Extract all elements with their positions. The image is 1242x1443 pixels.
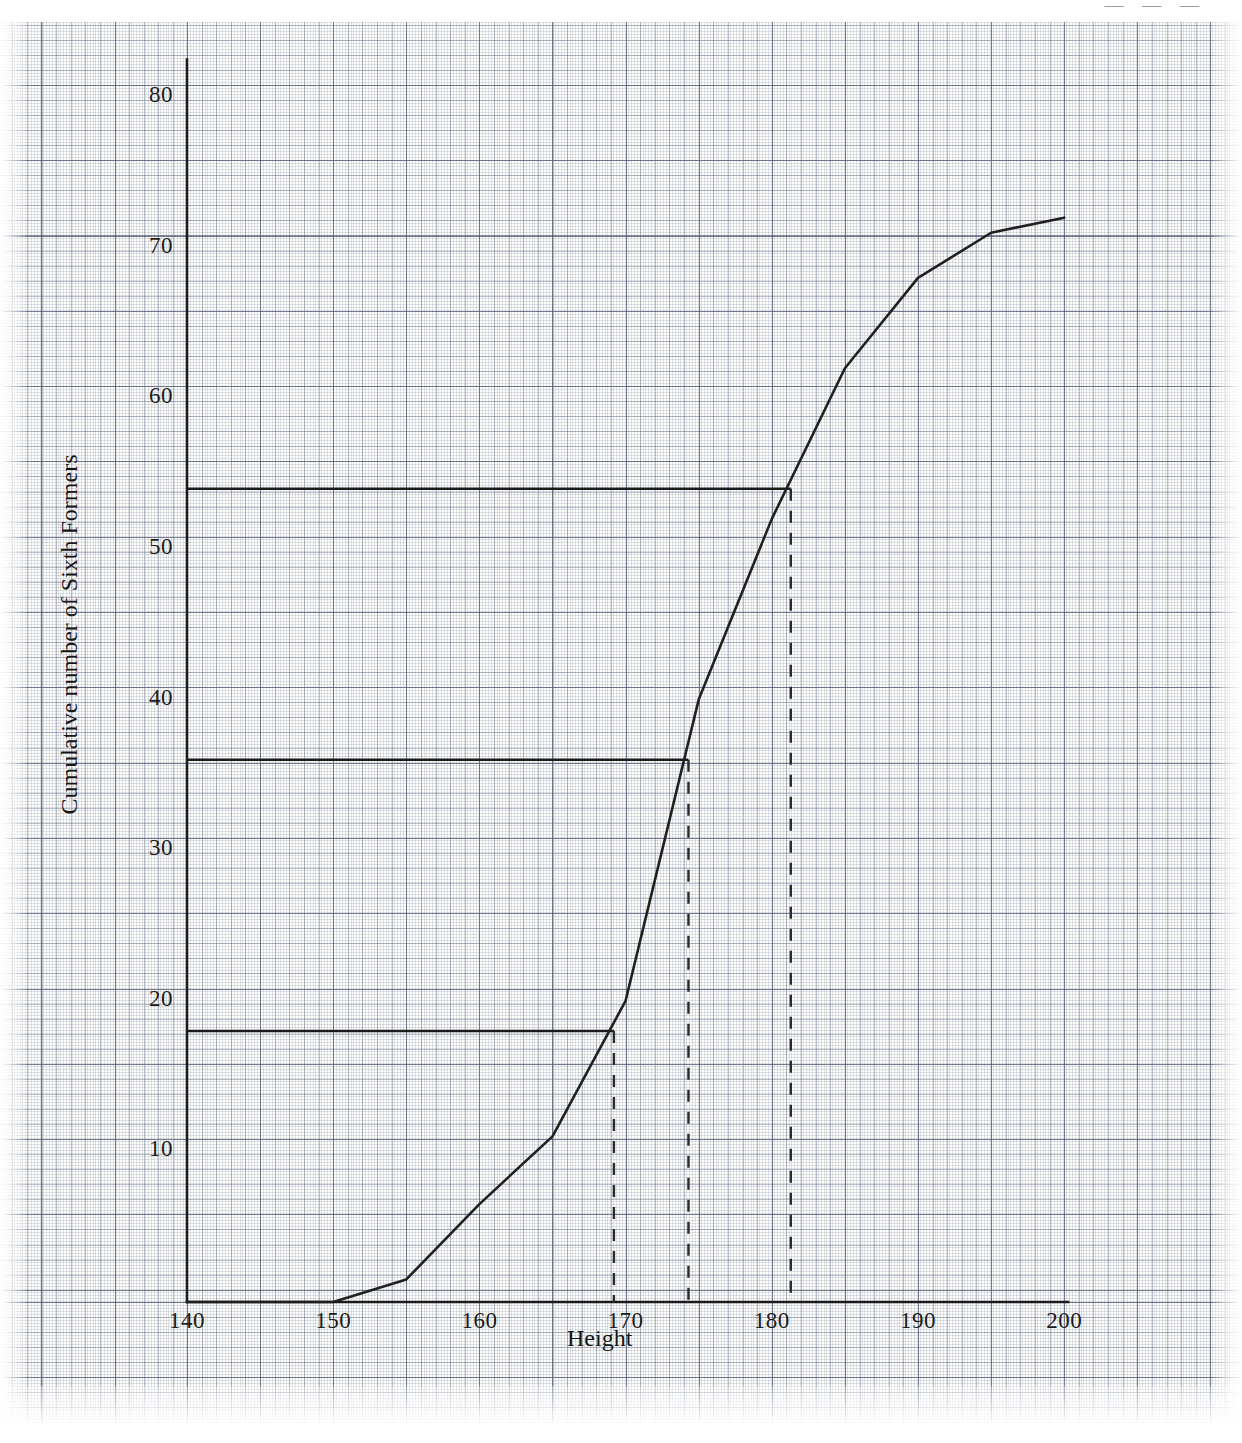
x-tick-label-200: 200 bbox=[1024, 1308, 1104, 1334]
y-tick-label-50: 50 bbox=[113, 534, 173, 560]
quartile-markers-layer bbox=[187, 489, 791, 1302]
y-tick-label-20: 20 bbox=[113, 986, 173, 1012]
x-tick-label-150: 150 bbox=[293, 1308, 373, 1334]
y-tick-label-10: 10 bbox=[113, 1136, 173, 1162]
y-tick-label-80: 80 bbox=[113, 82, 173, 108]
y-tick-label-30: 30 bbox=[113, 835, 173, 861]
x-tick-label-140: 140 bbox=[147, 1308, 227, 1334]
x-axis-label: Height bbox=[567, 1325, 632, 1352]
x-tick-label-160: 160 bbox=[439, 1308, 519, 1334]
y-axis-label: Cumulative number of Sixth Formers bbox=[56, 435, 83, 835]
y-tick-label-40: 40 bbox=[113, 685, 173, 711]
x-tick-label-180: 180 bbox=[732, 1308, 812, 1334]
axes-layer bbox=[187, 60, 1068, 1302]
y-tick-label-70: 70 bbox=[113, 233, 173, 259]
graph-paper-page: — — — 1020304050607080 14015016017018019… bbox=[0, 0, 1242, 1443]
x-tick-label-190: 190 bbox=[878, 1308, 958, 1334]
y-tick-label-60: 60 bbox=[113, 383, 173, 409]
cumulative-frequency-plot bbox=[0, 0, 1242, 1443]
